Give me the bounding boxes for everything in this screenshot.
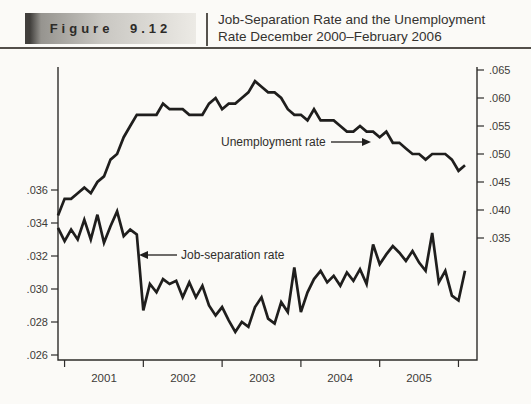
scanned-figure-page: Figure 9.12 Job-Separation Rate and the …: [0, 0, 531, 404]
unemployment-annotation-arrow: [331, 138, 371, 146]
job-separation-annotation-arrow: [139, 251, 177, 259]
right-axis-tick-label: .050: [489, 148, 523, 160]
x-axis-year-label: 2005: [394, 372, 444, 384]
x-axis-year-label: 2003: [237, 372, 287, 384]
left-axis-tick-label: .028: [14, 316, 48, 328]
right-axis-tick-label: .060: [489, 92, 523, 104]
job-separation-rate-line: [58, 211, 465, 332]
left-axis-tick-label: .036: [14, 184, 48, 196]
right-axis-tick-label: .045: [489, 176, 523, 188]
right-axis-tick-label: .040: [489, 204, 523, 216]
right-axis-tick-label: .035: [489, 232, 523, 244]
left-axis-tick-label: .034: [14, 217, 48, 229]
axis-ticks: [51, 70, 484, 367]
line-chart: [0, 0, 531, 404]
left-axis-tick-label: .032: [14, 250, 48, 262]
x-axis-year-label: 2004: [315, 372, 365, 384]
left-axis-tick-label: .026: [14, 349, 48, 361]
x-axis-year-label: 2001: [79, 372, 129, 384]
right-axis-tick-label: .055: [489, 120, 523, 132]
unemployment-rate-label: Unemployment rate: [221, 135, 326, 149]
job-separation-rate-label: Job-separation rate: [181, 248, 284, 262]
right-axis-tick-label: .065: [489, 64, 523, 76]
left-axis-tick-label: .030: [14, 283, 48, 295]
x-axis-year-label: 2002: [158, 372, 208, 384]
